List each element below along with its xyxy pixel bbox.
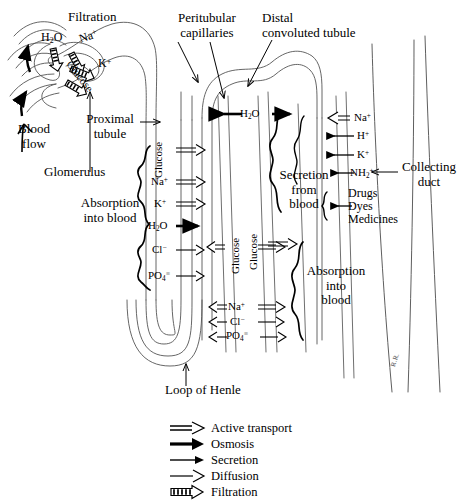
solute-label-nh2-secretion: NH2+ — [350, 166, 374, 180]
diffusion-icon — [168, 468, 208, 484]
label-proximal-tubule: Proximal tubule — [78, 112, 142, 141]
legend-label-active-transport: Active transport — [208, 421, 292, 436]
solute-label-cl-proximal: Cl− — [152, 243, 167, 255]
solute-label-h2o-glomerulus: H2O — [41, 31, 62, 46]
solute-label-h2o-proximal: H2O — [148, 219, 168, 233]
label-distal-convoluted-tubule: Distal convoluted tubule — [262, 11, 356, 40]
label-loop-of-henle: Loop of Henle — [165, 383, 241, 398]
label-collecting-duct: Collecting duct — [398, 160, 460, 189]
solute-label-k-proximal: K+ — [154, 197, 166, 209]
solute-label-po4-proximal: PO4≡ — [148, 269, 170, 283]
label-peritubular-capillaries: Peritubular capillaries — [178, 11, 236, 40]
solute-label-glucose-secretion: Glucose — [247, 224, 259, 270]
nephron-diagram: Filtration Peritubular capillaries Dista… — [0, 0, 464, 503]
legend-label-filtration: Filtration — [208, 485, 258, 500]
label-absorption-into-blood-proximal: Absorption into blood — [68, 196, 152, 225]
solute-label-k-glomerulus: K+ — [98, 57, 111, 70]
osmosis-icon — [168, 436, 208, 452]
legend: Active transport Osmosis Secretion Diffu… — [168, 420, 292, 500]
label-blood-flow: Blood flow — [8, 122, 60, 151]
secretion-icon — [168, 452, 208, 468]
label-glomerulus: Glomerulus — [44, 165, 105, 180]
legend-label-diffusion: Diffusion — [208, 469, 259, 484]
solute-label-h2o-distal: H2O — [240, 107, 260, 121]
solute-label-h-secretion: H+ — [357, 129, 369, 141]
solute-label-na-secretion: Na+ — [354, 111, 371, 123]
solute-label-po4-loop: PO4≡ — [226, 329, 248, 343]
secreted-substance-medicines: Medicines — [348, 213, 398, 226]
label-filtration: Filtration — [68, 10, 116, 25]
label-absorption-into-blood-loop: Absorption into blood — [300, 264, 372, 308]
solute-label-cl-loop: Cl− — [230, 315, 245, 327]
active-transport-icon — [168, 420, 208, 436]
legend-item-secretion: Secretion — [168, 452, 292, 468]
solute-label-na-proximal: Na+ — [151, 175, 168, 187]
legend-label-secretion: Secretion — [208, 453, 258, 468]
legend-item-active-transport: Active transport — [168, 420, 292, 436]
solute-label-glucose-loop: Glucose — [229, 226, 241, 274]
solute-label-na-loop: Na+ — [228, 300, 245, 312]
filtration-icon — [168, 484, 208, 500]
label-secretion-from-blood: Secretion from blood — [272, 168, 336, 212]
solute-label-glucose-proximal: Glucose — [152, 124, 164, 178]
legend-item-filtration: Filtration — [168, 484, 292, 500]
solute-label-k-secretion: K+ — [357, 148, 369, 160]
legend-item-osmosis: Osmosis — [168, 436, 292, 452]
legend-label-osmosis: Osmosis — [208, 437, 254, 452]
legend-item-diffusion: Diffusion — [168, 468, 292, 484]
